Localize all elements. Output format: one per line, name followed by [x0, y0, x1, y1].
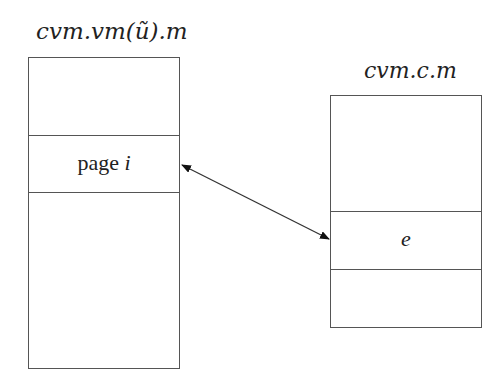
bidirectional-arrow: [0, 0, 502, 377]
